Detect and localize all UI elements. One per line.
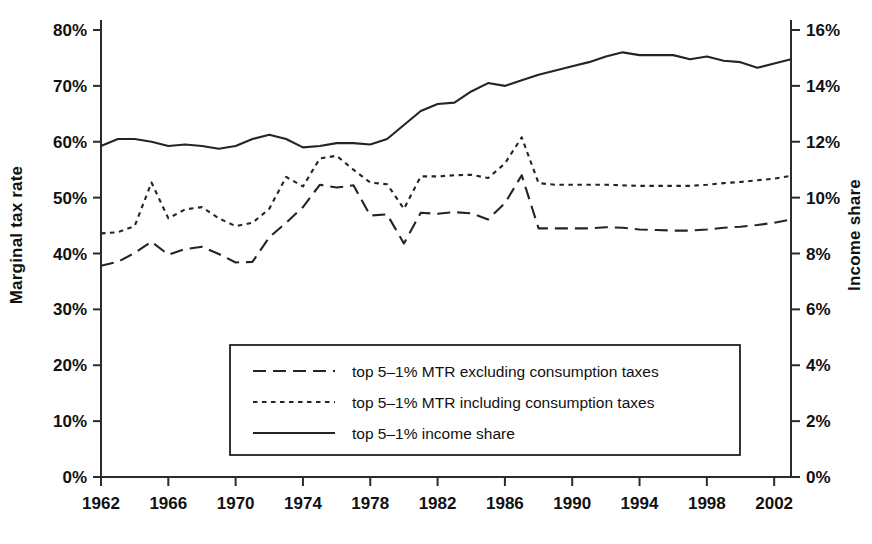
right-tick-label: 12% xyxy=(806,133,840,152)
right-tick-label: 4% xyxy=(806,356,831,375)
series-line-0 xyxy=(101,175,791,266)
right-tick-label: 0% xyxy=(806,468,831,487)
series-line-1 xyxy=(101,137,791,233)
chart-plot-area: 0%10%20%30%40%50%60%70%80%0%2%4%6%8%10%1… xyxy=(0,0,872,544)
right-tick-label: 14% xyxy=(806,77,840,96)
x-tick-label: 1982 xyxy=(419,494,457,513)
left-tick-label: 50% xyxy=(53,189,87,208)
right-tick-label: 8% xyxy=(806,245,831,264)
left-tick-label: 0% xyxy=(62,468,87,487)
x-tick-label: 1998 xyxy=(688,494,726,513)
legend-label-1: top 5–1% MTR including consumption taxes xyxy=(352,394,655,411)
legend-label-2: top 5–1% income share xyxy=(352,425,515,442)
x-tick-label: 2002 xyxy=(755,494,793,513)
x-tick-label: 1966 xyxy=(149,494,187,513)
left-tick-label: 40% xyxy=(53,245,87,264)
right-tick-label: 6% xyxy=(806,300,831,319)
x-tick-label: 1986 xyxy=(486,494,524,513)
left-tick-label: 20% xyxy=(53,356,87,375)
right-tick-label: 10% xyxy=(806,189,840,208)
left-tick-label: 70% xyxy=(53,77,87,96)
x-tick-label: 1970 xyxy=(217,494,255,513)
x-tick-label: 1978 xyxy=(351,494,389,513)
legend-label-0: top 5–1% MTR excluding consumption taxes xyxy=(352,363,659,380)
x-tick-label: 1994 xyxy=(621,494,659,513)
left-tick-label: 10% xyxy=(53,412,87,431)
x-tick-label: 1974 xyxy=(284,494,322,513)
left-tick-label: 60% xyxy=(53,133,87,152)
chart-figure: Marginal tax rate Income share 0%10%20%3… xyxy=(0,0,872,544)
left-tick-label: 30% xyxy=(53,300,87,319)
right-tick-label: 16% xyxy=(806,21,840,40)
left-tick-label: 80% xyxy=(53,21,87,40)
x-tick-label: 1962 xyxy=(82,494,120,513)
right-tick-label: 2% xyxy=(806,412,831,431)
series-line-2 xyxy=(101,52,791,148)
x-tick-label: 1990 xyxy=(553,494,591,513)
